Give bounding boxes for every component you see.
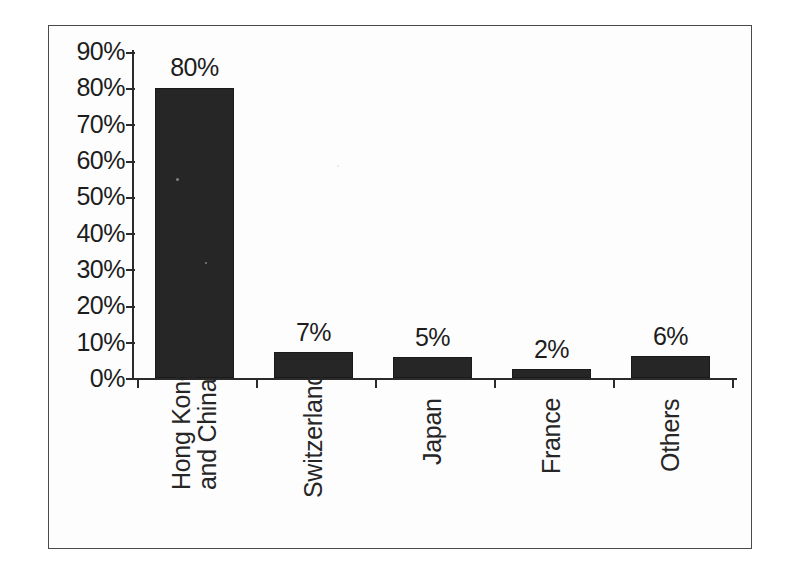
x-axis-line [132, 378, 737, 380]
y-axis-tick-label: 20% [59, 293, 125, 318]
y-axis-tick [126, 161, 135, 163]
scan-speck [176, 178, 179, 181]
bar [631, 356, 710, 378]
bar-value-label: 80% [155, 55, 234, 80]
y-axis-tick-label: 0% [59, 366, 125, 391]
y-axis-tick-label: 90% [59, 39, 125, 64]
bar [512, 369, 591, 378]
bar-value-label: 2% [512, 337, 591, 362]
x-axis-tick [732, 379, 734, 388]
x-axis-category-label: Japan [419, 398, 445, 465]
chart-image: 90% 80% 70% 60% 50% 40% 30% 20% 10% 0% 8… [0, 0, 795, 576]
bar [155, 88, 234, 378]
scan-speck [205, 262, 207, 264]
y-axis-tick-label: 50% [59, 184, 125, 209]
bar-value-label: 7% [274, 320, 353, 345]
x-axis-tick [375, 379, 377, 388]
plot-area: 90% 80% 70% 60% 50% 40% 30% 20% 10% 0% 8… [0, 0, 795, 576]
x-axis-category-label-line: and China [194, 368, 220, 490]
y-axis-tick [126, 52, 135, 54]
y-axis-tick [126, 88, 135, 90]
x-axis-tick [256, 379, 258, 388]
y-axis-line [132, 50, 134, 380]
y-axis-tick [126, 306, 135, 308]
x-axis-tick [613, 379, 615, 388]
x-axis-category-label-line: Switzerland [299, 372, 327, 498]
y-axis-tick-label: 30% [59, 257, 125, 282]
x-axis-category-label: France [538, 398, 564, 474]
bar-value-label: 6% [631, 324, 710, 349]
x-axis-tick [137, 379, 139, 388]
x-axis-category-label-line: Others [656, 399, 684, 472]
x-axis-category-label-line: France [537, 398, 565, 474]
y-axis-tick-label: 40% [59, 221, 125, 246]
x-axis-category-label-line: Japan [418, 398, 446, 465]
y-axis-tick [126, 233, 135, 235]
y-axis-tick [126, 269, 135, 271]
bar-value-label: 5% [393, 325, 472, 350]
y-axis-tick [126, 124, 135, 126]
x-axis-tick [494, 379, 496, 388]
y-axis-tick-label: 80% [59, 75, 125, 100]
y-axis-tick [126, 197, 135, 199]
x-axis-category-label: Switzerland [300, 372, 326, 498]
x-axis-category-label: Hong Kong and China [168, 368, 221, 490]
y-axis-tick-label: 60% [59, 148, 125, 173]
y-axis-tick [126, 342, 135, 344]
y-axis-tick-label: 70% [59, 112, 125, 137]
x-axis-category-label: Others [657, 399, 683, 472]
y-axis-tick-label: 10% [59, 330, 125, 355]
bar [393, 357, 472, 378]
scan-speck [337, 165, 339, 167]
x-axis-category-label-line: Hong Kong [167, 368, 195, 490]
